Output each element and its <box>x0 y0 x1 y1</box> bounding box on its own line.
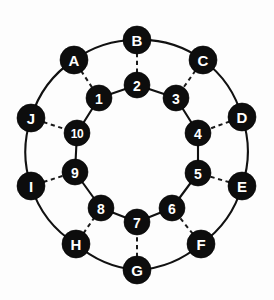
spoke-I-9 <box>43 176 63 182</box>
node-circle-G[interactable] <box>123 256 151 284</box>
node-7[interactable]: 7 <box>124 209 150 235</box>
spoke-C-3 <box>183 71 196 89</box>
node-circle-A[interactable] <box>60 46 88 74</box>
node-8[interactable]: 8 <box>88 195 114 221</box>
node-2[interactable]: 2 <box>124 72 150 98</box>
inner-nodes-group: 12345678910 <box>62 72 211 235</box>
node-circle-1[interactable] <box>86 85 112 111</box>
node-circle-7[interactable] <box>124 209 150 235</box>
node-G[interactable]: G <box>123 256 151 284</box>
node-circle-5[interactable] <box>185 160 211 186</box>
node-9[interactable]: 9 <box>62 159 88 185</box>
node-B[interactable]: B <box>123 26 151 54</box>
spoke-J-10 <box>43 122 65 129</box>
node-4[interactable]: 4 <box>185 120 211 146</box>
node-5[interactable]: 5 <box>185 160 211 186</box>
node-3[interactable]: 3 <box>163 85 189 111</box>
node-D[interactable]: D <box>228 103 256 131</box>
node-10[interactable]: 10 <box>64 120 90 146</box>
node-circle-6[interactable] <box>159 195 185 221</box>
node-circle-J[interactable] <box>17 104 45 132</box>
spoke-F-6 <box>180 217 193 234</box>
node-circle-C[interactable] <box>189 46 217 74</box>
node-6[interactable]: 6 <box>159 195 185 221</box>
node-circle-F[interactable] <box>187 230 215 258</box>
spoke-E-5 <box>210 176 230 182</box>
node-I[interactable]: I <box>17 172 45 200</box>
spoke-A-1 <box>81 71 92 88</box>
node-C[interactable]: C <box>189 46 217 74</box>
node-circle-E[interactable] <box>228 172 256 200</box>
node-1[interactable]: 1 <box>86 85 112 111</box>
node-circle-H[interactable] <box>62 230 90 258</box>
node-circle-3[interactable] <box>163 85 189 111</box>
node-E[interactable]: E <box>228 172 256 200</box>
node-circle-4[interactable] <box>185 120 211 146</box>
node-circle-D[interactable] <box>228 103 256 131</box>
spoke-D-4 <box>209 121 230 128</box>
graph-canvas: ABCDEFGHIJ 12345678910 <box>0 0 274 300</box>
node-H[interactable]: H <box>62 230 90 258</box>
node-circle-8[interactable] <box>88 195 114 221</box>
node-circle-B[interactable] <box>123 26 151 54</box>
node-circle-9[interactable] <box>62 159 88 185</box>
spoke-H-8 <box>83 218 94 233</box>
node-A[interactable]: A <box>60 46 88 74</box>
node-circle-2[interactable] <box>124 72 150 98</box>
graph-diagram: ABCDEFGHIJ 12345678910 <box>0 0 274 300</box>
node-circle-I[interactable] <box>17 172 45 200</box>
node-J[interactable]: J <box>17 104 45 132</box>
node-circle-10[interactable] <box>64 120 90 146</box>
node-F[interactable]: F <box>187 230 215 258</box>
